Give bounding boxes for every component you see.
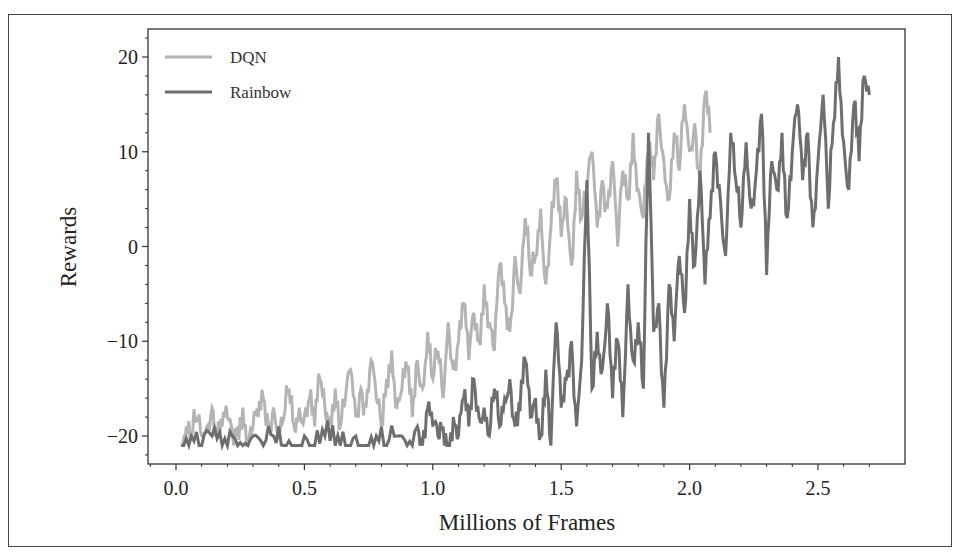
x-tick-label: 1.5 (549, 477, 574, 499)
x-axis-label: Millions of Frames (439, 510, 615, 535)
x-tick-label: 0.0 (164, 477, 189, 499)
y-tick-label: 0 (128, 236, 138, 258)
x-tick-label: 0.5 (292, 477, 317, 499)
y-tick-label: −20 (107, 425, 138, 447)
y-tick-label: 10 (118, 141, 138, 163)
x-tick-label: 1.0 (420, 477, 445, 499)
x-tick-label: 2.0 (677, 477, 702, 499)
y-axis-label: Rewards (56, 207, 81, 288)
legend-rainbow-label: Rainbow (230, 83, 292, 102)
x-tick-label: 2.5 (806, 477, 831, 499)
plot-area (181, 57, 869, 446)
y-tick-label: 20 (118, 46, 138, 68)
x-axis: 0.00.51.01.52.02.5 (150, 464, 869, 499)
legend: DQN Rainbow (165, 48, 292, 102)
series-dqn-line (181, 91, 710, 446)
line-chart: 0.00.51.01.52.02.5 20100−10−20 Millions … (0, 0, 960, 557)
series-rainbow-line (181, 57, 869, 446)
y-tick-label: −10 (107, 330, 138, 352)
y-axis: 20100−10−20 (107, 38, 148, 455)
legend-dqn-label: DQN (230, 48, 267, 67)
